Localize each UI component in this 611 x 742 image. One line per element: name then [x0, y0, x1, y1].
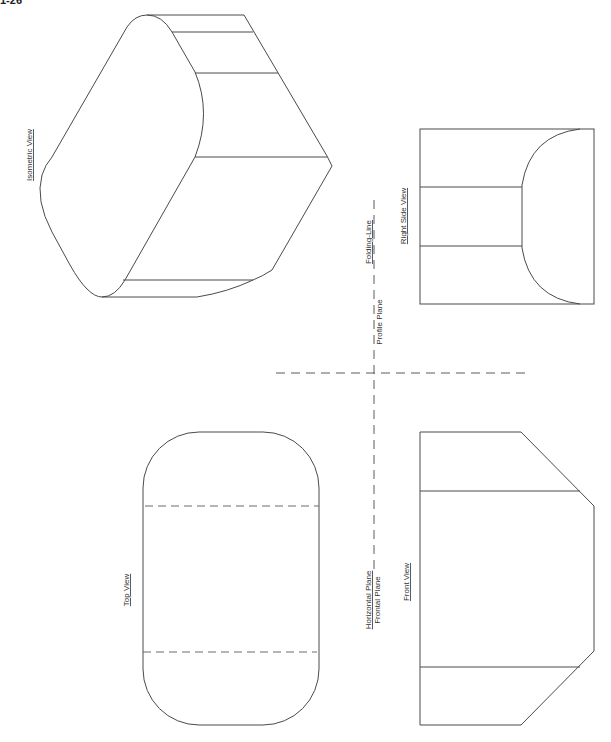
right-side-view-label: Right Side View [399, 188, 408, 245]
right-side-curve [522, 129, 580, 304]
front-view [420, 432, 594, 725]
isometric-view-label: Isometric View [25, 129, 34, 181]
drawing-canvas: Isometric View Right Side View Folding-L… [0, 0, 611, 742]
top-view-outline [143, 432, 319, 725]
isometric-front-face [40, 15, 204, 297]
horizontal-plane-label: Horizontal Plane [364, 570, 373, 629]
right-side-outline [420, 129, 594, 304]
folding-line-label: Folding-Line [364, 219, 373, 264]
frontal-plane-label: Frontal Plane [373, 576, 382, 624]
top-view [143, 432, 319, 725]
front-view-label: Front View [402, 563, 411, 601]
iso-bottom-contour [102, 280, 253, 297]
right-side-view [420, 129, 594, 304]
isometric-view [40, 15, 332, 297]
iso-right-contour [244, 15, 332, 280]
top-view-label: Top View [122, 574, 131, 607]
profile-plane-label: Profile Plane [375, 299, 384, 345]
front-view-outline [420, 432, 594, 725]
